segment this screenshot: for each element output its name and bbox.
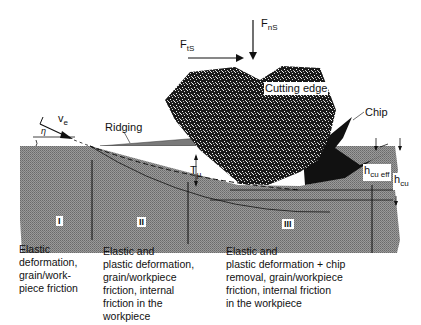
chip-label: Chip — [365, 106, 388, 119]
zone-i-marker: I — [56, 216, 63, 226]
angle-label: η — [41, 125, 46, 138]
zone-ii-description: Elastic andplastic deformation,grain/wor… — [103, 245, 194, 323]
zone-i-description: Elasticdeformation,grain/work-piece fric… — [19, 243, 78, 295]
zone-iii-marker: III — [282, 219, 294, 229]
tangential-force-label: FtS — [180, 38, 194, 55]
h-cu-eff-label: hcu eff — [363, 164, 391, 181]
zone-iii-description: Elastic andplastic deformation + chiprem… — [226, 245, 345, 310]
normal-force-label: FnS — [261, 17, 278, 34]
velocity-label: ve — [58, 112, 68, 129]
t-mu-label: Tμ — [190, 164, 201, 181]
h-cu-label: hcu — [393, 173, 410, 190]
ridging-label: Ridging — [105, 121, 142, 134]
zone-ii-marker: II — [137, 217, 146, 227]
cutting-edge-label: Cutting edge — [264, 82, 328, 95]
